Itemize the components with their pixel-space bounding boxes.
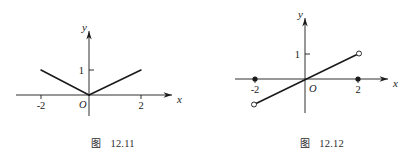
origin-label: O — [79, 99, 87, 110]
x-tick-label-minus2: -2 — [37, 100, 46, 111]
x-tick-label-minus2: -2 — [251, 84, 260, 95]
plot-area-12-12: y x O -2 2 1 — [209, 0, 418, 124]
figure-12-12: y x O -2 2 1 图12.12 — [209, 0, 418, 155]
curve-right-branch — [89, 70, 141, 95]
x-tick-label-2: 2 — [138, 100, 143, 111]
y-axis-label: y — [297, 8, 303, 20]
caption-label: 图 — [91, 138, 101, 149]
filled-point-marker-minus2 — [252, 76, 257, 81]
y-tick-label-1: 1 — [295, 49, 300, 60]
figure-12-11: y x O -2 2 1 图12.11 — [0, 0, 209, 155]
open-endpoint-marker-right — [357, 51, 362, 56]
y-axis-label: y — [81, 21, 87, 33]
figure-caption-12-11: 图12.11 — [0, 124, 209, 155]
y-tick-label-1: 1 — [79, 65, 84, 76]
caption-number: 12.12 — [319, 138, 344, 149]
caption-label: 图 — [300, 138, 310, 149]
open-endpoint-marker-left — [252, 102, 257, 107]
filled-point-marker-2 — [355, 76, 360, 81]
x-axis-label: x — [392, 77, 398, 89]
figure-caption-12-12: 图12.12 — [209, 124, 418, 155]
x-axis-label: x — [176, 93, 182, 105]
x-tick-label-2: 2 — [355, 84, 360, 95]
figure-pair-container: y x O -2 2 1 图12.11 — [0, 0, 418, 155]
caption-number: 12.11 — [110, 138, 134, 149]
plot-area-12-11: y x O -2 2 1 — [0, 0, 209, 124]
origin-label: O — [309, 83, 317, 94]
